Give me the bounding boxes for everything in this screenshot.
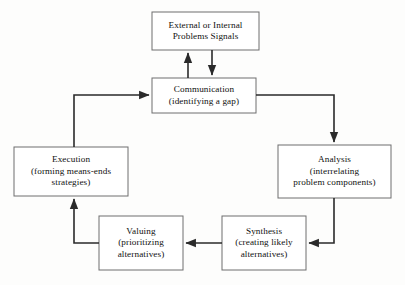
flowchart-diagram: External or Internal Problems Signals Co…	[0, 0, 405, 285]
connector-execution-to-communication	[74, 95, 149, 147]
connector-analysis-to-synthesis	[309, 198, 334, 243]
node-box-communication	[152, 78, 256, 113]
connector-communication-to-analysis	[256, 95, 334, 142]
node-box-synthesis	[222, 216, 306, 270]
node-box-execution	[14, 147, 128, 196]
node-box-external-internal-problems-signals	[152, 12, 259, 50]
node-box-analysis	[278, 145, 391, 198]
connector-valuing-to-execution	[74, 199, 99, 243]
node-box-valuing	[99, 216, 183, 270]
diagram-canvas	[0, 0, 405, 285]
